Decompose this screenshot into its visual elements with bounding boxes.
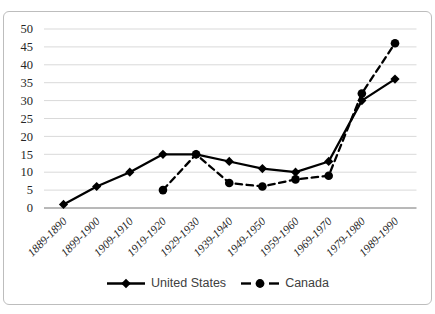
y-tick-label: 0 bbox=[27, 201, 33, 215]
y-tick-label: 15 bbox=[21, 148, 34, 162]
legend-item-united-states: United States bbox=[106, 276, 226, 290]
marker-canada bbox=[225, 179, 234, 188]
marker-canada bbox=[358, 89, 367, 98]
legend-label-united-states: United States bbox=[151, 276, 226, 290]
chart-svg: 051015202530354045501889-18901899-190019… bbox=[0, 0, 435, 314]
legend-item-canada: Canada bbox=[240, 276, 329, 290]
marker-united-states bbox=[225, 157, 234, 166]
marker-canada bbox=[324, 171, 333, 180]
marker-canada bbox=[192, 150, 201, 159]
y-tick-label: 40 bbox=[21, 58, 34, 72]
marker-canada bbox=[258, 182, 267, 191]
chart-legend: United States Canada bbox=[0, 276, 435, 290]
y-tick-label: 50 bbox=[21, 22, 34, 36]
marker-united-states bbox=[158, 150, 167, 159]
y-tick-label: 5 bbox=[27, 183, 33, 197]
chart-figure: 051015202530354045501889-18901899-190019… bbox=[0, 0, 435, 314]
solid-line-diamond-icon bbox=[106, 277, 146, 290]
series-line-canada bbox=[163, 43, 395, 190]
dashed-line-circle-icon bbox=[240, 277, 280, 290]
y-tick-label: 35 bbox=[21, 76, 34, 90]
legend-label-canada: Canada bbox=[285, 276, 329, 290]
y-tick-label: 45 bbox=[21, 40, 34, 54]
marker-united-states bbox=[324, 157, 333, 166]
y-tick-label: 20 bbox=[21, 130, 34, 144]
y-tick-label: 30 bbox=[21, 94, 34, 108]
marker-canada bbox=[391, 39, 400, 48]
y-tick-label: 10 bbox=[21, 165, 34, 179]
marker-united-states bbox=[125, 168, 134, 177]
marker-canada bbox=[291, 175, 300, 184]
y-tick-label: 25 bbox=[21, 112, 34, 126]
marker-canada bbox=[159, 186, 168, 195]
